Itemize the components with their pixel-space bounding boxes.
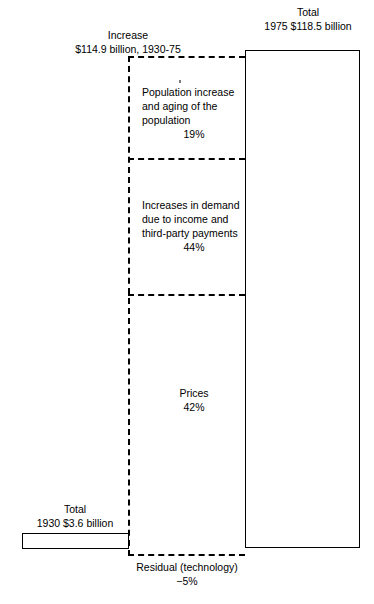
segment-residual-name: Residual (technology) xyxy=(136,561,238,573)
increase-caption: Increase $114.9 billion, 1930-75 xyxy=(8,29,248,56)
segment-demand-line1: Increases in demand xyxy=(142,199,239,211)
segment-demand-label: Increases in demand due to income and th… xyxy=(142,198,246,254)
segment-residual-label: Residual (technology) −5% xyxy=(118,561,256,588)
segment-prices-name: Prices xyxy=(142,386,246,400)
segment-prices-percent: 42% xyxy=(142,400,246,414)
segment-population-percent: 19% xyxy=(142,127,246,141)
total-1975-caption: Total 1975 $118.5 billion xyxy=(245,6,371,33)
increase-caption-line2: $114.9 billion, 1930-75 xyxy=(8,43,248,57)
total-1930-bar xyxy=(22,533,129,549)
total-1975-caption-line1: Total xyxy=(297,6,319,18)
total-1930-caption: Total 1930 $3.6 billion xyxy=(10,503,140,530)
speck-artifact xyxy=(179,80,181,83)
segment-prices-label: Prices 42% xyxy=(142,386,246,414)
segment-residual-percent: −5% xyxy=(118,575,256,589)
segment-population-label: Population increase and aging of the pop… xyxy=(142,85,246,141)
total-1975-bar xyxy=(245,50,360,548)
segment-divider-demand-prices xyxy=(128,294,245,296)
segment-demand-line3: third-party payments xyxy=(142,227,238,239)
segment-demand-line2: due to income and xyxy=(142,213,228,225)
segment-population-line3: population xyxy=(142,114,190,126)
segment-demand-percent: 44% xyxy=(142,240,246,254)
total-1930-caption-line1: Total xyxy=(64,503,86,515)
total-1975-caption-line2: 1975 $118.5 billion xyxy=(245,20,371,34)
increase-caption-line1: Increase xyxy=(108,29,148,41)
total-1930-caption-line2: 1930 $3.6 billion xyxy=(10,517,140,531)
segment-divider-population-demand xyxy=(128,158,245,160)
segment-population-line1: Population increase xyxy=(142,86,234,98)
waterfall-chart: Total 1975 $118.5 billion Increase $114.… xyxy=(0,0,374,604)
segment-population-line2: and aging of the xyxy=(142,100,217,112)
